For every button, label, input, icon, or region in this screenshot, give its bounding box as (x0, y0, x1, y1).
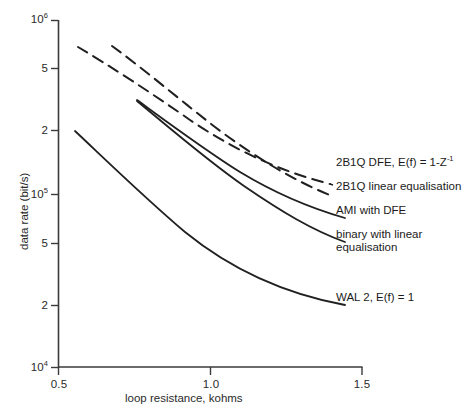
x-tick-label-1-5: 1.5 (342, 378, 382, 390)
curve-label-wal2: WAL 2, E(f) = 1 (336, 291, 414, 304)
data-curves (75, 46, 345, 305)
y-tick-label-1e4: 104 (8, 361, 48, 373)
curve-wal2 (75, 131, 345, 305)
y-axis-ticks (51, 21, 58, 368)
y-tick-label-2e5: 2 (8, 124, 48, 136)
y-tick-label-1e6: 106 (8, 13, 48, 25)
x-tick-label-0-5: 0.5 (39, 378, 79, 390)
curve-label-2b1q-linear: 2B1Q linear equalisation (336, 180, 461, 193)
x-axis-ticks (59, 367, 363, 375)
y-tick-label-5e5: 5 (8, 62, 48, 74)
y-axis-title: data rate (bit/s) (18, 173, 30, 250)
curve-2b1q-linear (112, 46, 332, 196)
curve-label-binary-linear-line2: equalisation (336, 241, 397, 254)
chart-figure: 106 5 2 105 5 2 104 0.5 1.0 1.5 data rat… (0, 0, 463, 417)
curve-label-2b1q-dfe: 2B1Q DFE, E(f) = 1-Z-1 (336, 156, 454, 169)
label-leader-lines (330, 184, 333, 185)
y-tick-label-2e4: 2 (8, 299, 48, 311)
x-tick-label-1-0: 1.0 (191, 378, 231, 390)
curve-ami-dfe (137, 100, 345, 218)
curve-2b1q-dfe (78, 47, 330, 184)
x-axis-title: loop resistance, kohms (125, 392, 243, 404)
curve-label-binary-linear-line1: binary with linear (336, 228, 422, 241)
axis-lines (58, 20, 363, 368)
curve-label-ami-dfe: AMI with DFE (336, 204, 406, 217)
